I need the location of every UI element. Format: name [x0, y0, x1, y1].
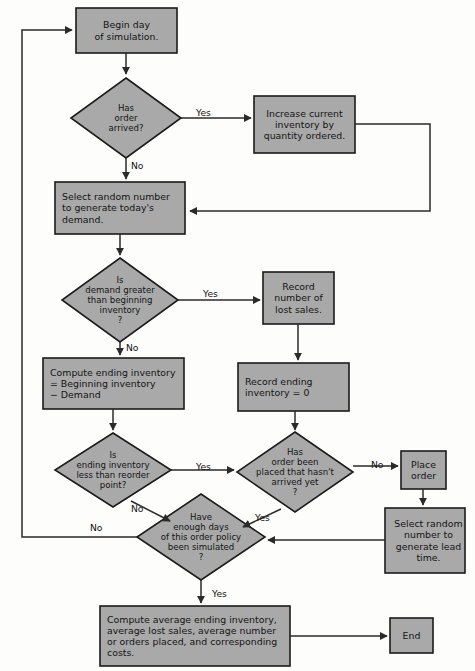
node-select-random-lead: [385, 508, 465, 573]
flowchart-connectors: [0, 0, 475, 671]
node-record-lost-sales: [263, 272, 334, 324]
node-compute-averages: [100, 606, 290, 666]
node-record-ending-zero: [238, 363, 349, 411]
edge-orderplaced-yes: [243, 509, 281, 527]
node-ending-less-reorder: [55, 433, 171, 507]
edge-reorder-no: [131, 501, 170, 521]
node-select-random-demand: [55, 182, 185, 234]
node-begin-day: [76, 8, 177, 53]
node-place-order: [401, 451, 446, 489]
node-has-order-arrived: [71, 78, 181, 158]
node-increase-inventory: [254, 96, 355, 153]
node-order-placed-not-arrived: [237, 432, 353, 512]
node-demand-greater: [62, 258, 178, 342]
node-enough-days: [137, 494, 265, 580]
node-compute-ending-inventory: [43, 358, 184, 409]
flowchart-canvas: Begin day of simulation.Has order arrive…: [0, 0, 475, 671]
node-end: [390, 618, 433, 653]
